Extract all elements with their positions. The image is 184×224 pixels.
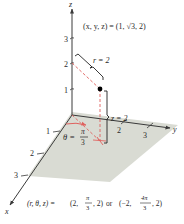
theta-label: θ = bbox=[63, 132, 75, 142]
theta-numerator: π bbox=[81, 127, 85, 136]
y-tick-label-3: 3 bbox=[143, 131, 147, 140]
z-tick-label-2: 2 bbox=[64, 60, 68, 69]
caption-lhs: (r, θ, z) = bbox=[27, 199, 55, 208]
caption-first-open: (2, bbox=[70, 199, 78, 208]
caption-first-den: 3 bbox=[86, 204, 89, 211]
caption: (r, θ, z) = (2, π 3 , 2) or (−2, 4π 3 , … bbox=[27, 194, 163, 211]
x-tick-label-3: 3 bbox=[14, 171, 18, 180]
point-marker bbox=[98, 87, 103, 92]
y-tick-label-2: 2 bbox=[117, 126, 121, 135]
z-axis-label: z bbox=[68, 0, 73, 9]
r-guide-top bbox=[72, 63, 100, 89]
x-tick-label-1: 1 bbox=[46, 127, 50, 136]
z-label: z = 2 bbox=[110, 114, 128, 123]
caption-second-den: 3 bbox=[143, 204, 146, 211]
caption-first-close: , 2) bbox=[93, 199, 104, 208]
point-label: (x, y, z) = (1, √3, 2) bbox=[83, 22, 146, 31]
z-tick-label-1: 1 bbox=[64, 86, 68, 95]
r-label: r = 2 bbox=[93, 56, 110, 65]
cylindrical-diagram: z 3 2 1 y 2 3 x 1 2 3 r = 2 z = 2 (x, y,… bbox=[0, 0, 184, 224]
x-tick-2 bbox=[37, 153, 44, 154]
z-tick-label-3: 3 bbox=[64, 35, 68, 44]
theta-denominator: 3 bbox=[81, 138, 85, 147]
caption-second-num: 4π bbox=[141, 194, 148, 201]
x-axis-label: x bbox=[4, 207, 9, 216]
caption-second-open: (−2, bbox=[119, 199, 131, 208]
caption-or: or bbox=[106, 199, 113, 208]
x-tick-label-2: 2 bbox=[30, 149, 34, 158]
caption-second-close: , 2) bbox=[152, 199, 163, 208]
caption-first-num: π bbox=[86, 194, 90, 201]
y-axis-label: y bbox=[172, 125, 177, 134]
x-tick-3 bbox=[21, 175, 28, 176]
